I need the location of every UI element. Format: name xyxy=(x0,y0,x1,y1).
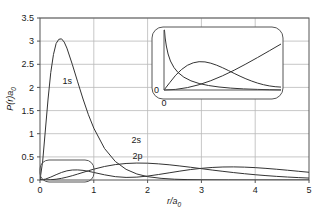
inset-x-origin-label: 0 xyxy=(161,98,166,108)
ytick-label-2: 2 xyxy=(29,83,34,93)
curve-label-2p: 2p xyxy=(133,151,143,161)
ytick-label-3.5: 3.5 xyxy=(21,13,34,23)
ytick-label-1: 1 xyxy=(29,129,34,139)
x-axis-title-main: r/a xyxy=(167,196,178,206)
xtick-label-1: 1 xyxy=(91,185,96,195)
x-axis-title-subscript: 0 xyxy=(177,201,181,208)
xtick-label-3: 3 xyxy=(199,185,204,195)
ytick-label-0: 0 xyxy=(29,175,34,185)
ytick-label-2.5: 2.5 xyxy=(21,59,34,69)
y-axis-title-subscript: 0 xyxy=(10,87,17,91)
ytick-label-1.5: 1.5 xyxy=(21,106,34,116)
xtick-label-4: 4 xyxy=(253,185,258,195)
xtick-label-2: 2 xyxy=(145,185,150,195)
xtick-label-5: 5 xyxy=(306,185,311,195)
radial-probability-chart: 0 1 2 3 4 5 0 0.5 1 1.5 2 2.5 3 3.5 r/a0… xyxy=(0,0,320,210)
curve-label-2s: 2s xyxy=(132,135,142,145)
ytick-label-3: 3 xyxy=(29,36,34,46)
xtick-label-0: 0 xyxy=(37,185,42,195)
inset-panel: 0 0 xyxy=(152,27,283,108)
y-axis-title-main: P(r)a xyxy=(5,91,15,111)
curve-label-1s: 1s xyxy=(63,76,73,86)
inset-y-origin-label: 0 xyxy=(154,85,159,95)
ytick-label-0.5: 0.5 xyxy=(21,152,34,162)
